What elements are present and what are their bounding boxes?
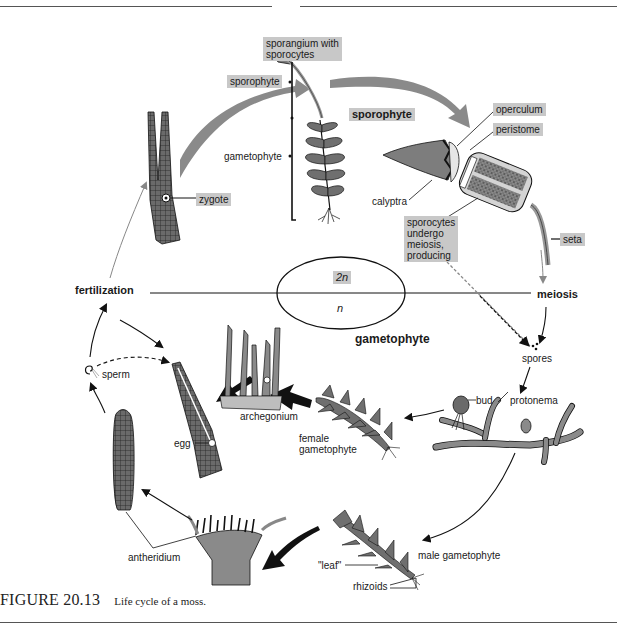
archegonia-cluster-drawing [220, 325, 282, 410]
gametophyte-phase-label: gametophyte [355, 334, 430, 345]
female-gametophyte-line1: female [299, 433, 357, 444]
gametophyte-bracket-label: gametophyte [224, 151, 282, 162]
antheridium-label: antheridium [128, 552, 180, 563]
sporocytes-note-line1: sporocytes [407, 217, 455, 228]
egg-archegonium-drawing [172, 362, 222, 478]
sporophyte-bracket-label: sporophyte [227, 75, 282, 88]
seta-label: seta [560, 233, 585, 246]
sporocytes-note-line2: undergo [407, 228, 455, 239]
operculum-label: operculum [493, 103, 546, 116]
female-gametophyte-label: female gametophyte [299, 433, 357, 455]
female-gametophyte-line2: gametophyte [299, 444, 357, 455]
sporophyte-plant-drawing [272, 43, 345, 224]
spores-dots [532, 343, 539, 351]
sperm-icon [86, 366, 100, 378]
archegonium-label: archegonium [240, 411, 298, 422]
bud-label: bud [476, 395, 493, 406]
bottom-rule [0, 622, 617, 623]
sporocytes-note-line3: meiosis, [407, 239, 455, 250]
egg-label: egg [174, 438, 191, 449]
sporangium-label-line1: sporangium with [266, 38, 339, 49]
protonema-label: protonema [510, 395, 558, 406]
peristome-label: peristome [493, 123, 543, 136]
antheridial-head-drawing [188, 515, 286, 585]
figure-number: FIGURE 20.13 [0, 591, 100, 608]
antheridium-drawing [113, 410, 134, 511]
zygote-archegonium-drawing [148, 112, 196, 244]
protonema-drawing [436, 392, 580, 462]
male-gametophyte-label: male gametophyte [418, 550, 500, 561]
sporangium-label-line2: sporocytes [266, 49, 339, 60]
moss-life-cycle-illustration [0, 0, 617, 629]
calyptra-label: calyptra [372, 196, 407, 207]
sporocytes-note-line4: producing [407, 250, 455, 261]
big-arrow-zygote-to-sporophyte [180, 79, 310, 178]
sperm-label: sperm [102, 369, 130, 380]
sporocytes-note: sporocytes undergo meiosis, producing [404, 216, 458, 262]
sporangium-label: sporangium with sporocytes [263, 37, 342, 61]
spores-label: spores [522, 353, 552, 364]
rhizoids-label: rhizoids [353, 581, 387, 592]
sporophyte-phase-label: sporophyte [349, 108, 415, 121]
male-gametophyte-drawing [333, 510, 424, 590]
figure-caption: FIGURE 20.13Life cycle of a moss. [0, 591, 206, 609]
diploid-label: 2n [333, 271, 351, 284]
leaf-label: "leaf" [318, 560, 341, 571]
meiosis-label: meiosis [537, 289, 578, 300]
black-arrow-to-antheridium [262, 526, 320, 570]
haploid-label: n [337, 303, 343, 314]
zygote-label: zygote [196, 193, 231, 206]
figure-caption-text: Life cycle of a moss. [114, 595, 206, 607]
fertilization-label: fertilization [75, 285, 134, 296]
